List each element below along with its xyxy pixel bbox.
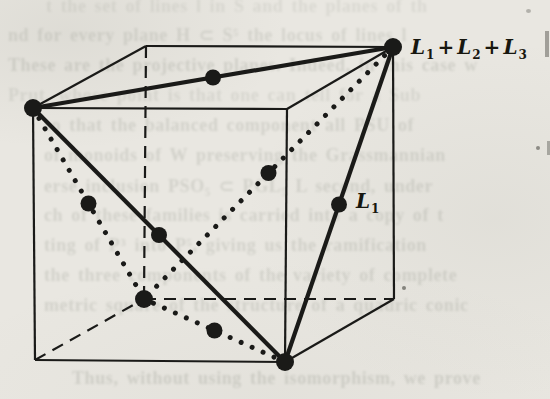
cube-edge: [393, 47, 394, 299]
sum-label: L1+L2+L3: [410, 35, 527, 62]
scan-artifact: [536, 146, 540, 150]
cube-edge: [33, 108, 287, 109]
lattice-point: [384, 38, 402, 56]
cube-edge: [146, 46, 393, 47]
cube-edge: [33, 108, 35, 360]
lattice-point: [331, 197, 347, 213]
label-part: 1: [371, 202, 379, 216]
cube-hidden-edge: [35, 299, 144, 360]
l1-label: L1: [355, 189, 379, 216]
cube-edge: [35, 360, 285, 362]
cube-edge: [285, 109, 287, 362]
scan-artifact: [545, 31, 549, 57]
label-part: L: [355, 189, 370, 213]
cube-lattice-figure: L1+L2+L3L1: [0, 0, 550, 399]
label-part: L: [502, 35, 517, 59]
scan-artifact: [526, 9, 531, 13]
cube-hidden-edge: [144, 46, 146, 299]
label-part: L: [456, 35, 471, 59]
lattice-point: [151, 227, 167, 243]
lattice-point: [261, 165, 277, 181]
scanned-page: t the set of lines l in S and the planes…: [0, 0, 550, 399]
lattice-point: [276, 353, 294, 371]
lattice-point: [205, 70, 221, 86]
label-part: 1: [426, 48, 434, 62]
label-part: 3: [518, 48, 526, 62]
lattice-point: [207, 323, 223, 339]
label-part: +: [484, 35, 501, 59]
label-part: 2: [472, 48, 480, 62]
lattice-point: [24, 99, 42, 117]
lattice-point: [135, 290, 153, 308]
label-part: +: [437, 35, 454, 59]
lattice-point: [81, 196, 97, 212]
label-part: L: [410, 35, 425, 59]
scan-artifact: [402, 286, 406, 290]
